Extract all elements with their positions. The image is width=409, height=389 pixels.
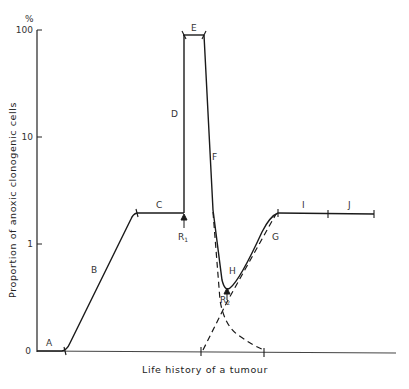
phase-label-c: C — [156, 200, 162, 210]
x-axis — [37, 351, 396, 353]
y-tick-label-0: 0 — [25, 346, 31, 356]
phase-label-j: J — [347, 200, 351, 210]
phase-label-g: G — [272, 232, 279, 242]
main-curve — [37, 35, 374, 351]
y-tick-label-1: 1 — [27, 239, 33, 249]
phase-label-d: D — [171, 109, 178, 119]
phase-markers — [64, 31, 374, 357]
y-unit-label: % — [25, 14, 34, 24]
phase-label-f: F — [212, 152, 217, 162]
r1-arrow-icon — [181, 214, 187, 228]
r1-label: R1 — [178, 232, 188, 243]
r2-label: R2 — [220, 295, 230, 306]
phase-label-e: E — [191, 23, 197, 33]
dashed-components — [203, 212, 276, 350]
x-axis-title: Life history of a tumour — [142, 364, 268, 375]
y-axis-title: Proportion of anoxic clonogenic cells — [7, 102, 18, 298]
phase-label-b: B — [91, 265, 97, 275]
phase-label-a: A — [46, 338, 53, 348]
y-tick-label-100: 100 — [16, 25, 33, 35]
phase-label-h: H — [229, 266, 236, 276]
phase-label-i: I — [302, 200, 305, 210]
y-tick-label-10: 10 — [22, 132, 34, 142]
chart-canvas: % 100 10 1 0 Proportion of anoxic clonog… — [0, 0, 409, 389]
